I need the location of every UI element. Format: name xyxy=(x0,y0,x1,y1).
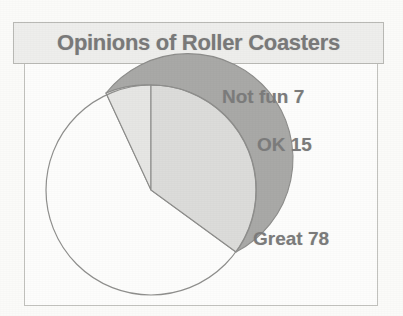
slice-label-great: Great 78 xyxy=(253,228,329,250)
slice-label-not-fun-text: Not fun 7 xyxy=(222,86,304,107)
slice-label-ok: OK 15 xyxy=(257,134,312,156)
pie-chart-figure: Opinions of Roller Coasters Not fun 7 OK… xyxy=(0,0,403,316)
page-title: Opinions of Roller Coasters xyxy=(57,30,340,56)
slice-label-ok-text: OK 15 xyxy=(257,134,312,155)
slice-label-great-text: Great 78 xyxy=(253,228,329,249)
slice-label-not-fun: Not fun 7 xyxy=(222,86,304,108)
plot-area-frame xyxy=(24,64,378,306)
chart-title-box: Opinions of Roller Coasters xyxy=(13,22,384,64)
